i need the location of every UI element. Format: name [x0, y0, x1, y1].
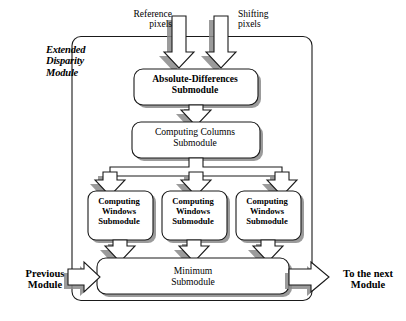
- block-label-computing-windows-3: Computing Windows Submodule: [236, 196, 298, 226]
- block-label-computing-windows-1: Computing Windows Submodule: [88, 196, 150, 226]
- input-arrow-shifting: [201, 16, 236, 72]
- input-label-shifting: Shifting pixels: [238, 9, 308, 30]
- port-arrow-next: [285, 262, 329, 296]
- port-label-next-module: To the next Module: [332, 268, 404, 291]
- port-label-previous-module: Previous Module: [6, 268, 84, 291]
- module-label: Extended Disparity Module: [46, 44, 108, 78]
- block-label-computing-columns: Computing Columns Submodule: [131, 126, 259, 149]
- input-label-reference: Reference pixels: [110, 9, 172, 30]
- diagram-canvas: Extended Disparity Module Reference pixe…: [0, 0, 406, 321]
- block-label-absolute-differences: Absolute-Differences Submodule: [133, 73, 257, 96]
- block-label-minimum: Minimum Submodule: [118, 265, 268, 288]
- block-label-computing-windows-2: Computing Windows Submodule: [162, 196, 224, 226]
